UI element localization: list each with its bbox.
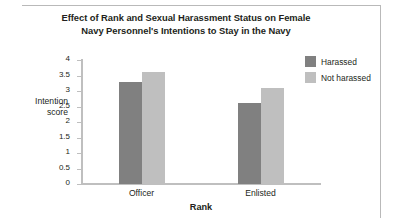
y-axis-tick-label: 2 [66, 116, 70, 125]
chart-title: Effect of Rank and Sexual Harassment Sta… [38, 11, 334, 37]
y-axis-tick-label: 3 [66, 85, 70, 94]
y-axis-tick: 3.5 [77, 76, 82, 77]
bar [142, 72, 165, 184]
bar [238, 103, 261, 184]
y-axis-tick: 1.5 [77, 138, 82, 139]
y-axis-tick: 3 [77, 91, 82, 92]
y-axis-tick-label: 2.5 [59, 101, 70, 110]
x-axis-category-label: Officer [102, 188, 182, 198]
bar [119, 82, 142, 184]
y-axis-tick: 1 [77, 153, 82, 154]
y-axis-tick-label: 4 [66, 54, 70, 63]
y-axis-tick: 2.5 [77, 107, 82, 108]
y-axis-tick: 4 [77, 60, 82, 61]
bar [261, 88, 284, 184]
y-axis-tick: 2 [77, 122, 82, 123]
legend-item-label: Not harassed [321, 73, 371, 83]
y-axis-tick-label: 0.5 [59, 163, 70, 172]
y-axis-tick-label: 1.5 [59, 132, 70, 141]
y-axis-tick-label: 0 [66, 178, 70, 187]
right-divider [380, 5, 381, 218]
legend-item: Harassed [305, 56, 371, 67]
legend-swatch-icon [305, 56, 316, 67]
y-axis-tick-label: 1 [66, 147, 70, 156]
y-axis-tick-label: 3.5 [59, 70, 70, 79]
chart-legend: HarassedNot harassed [305, 56, 371, 88]
chart-figure: Effect of Rank and Sexual Harassment Sta… [0, 0, 396, 220]
x-axis-category-label: Enlisted [221, 188, 301, 198]
plot-area: 43.532.521.510.50 [82, 60, 320, 184]
y-axis-tick: 0.5 [77, 169, 82, 170]
legend-swatch-icon [305, 72, 316, 83]
chart-title-line-1: Effect of Rank and Sexual Harassment Sta… [38, 11, 334, 24]
chart-title-line-2: Navy Personnel's Intentions to Stay in t… [38, 24, 334, 37]
x-axis-label: Rank [82, 202, 320, 212]
legend-item: Not harassed [305, 72, 371, 83]
y-axis-tick: 0 [77, 184, 82, 185]
legend-item-label: Harassed [321, 57, 357, 67]
top-divider [22, 5, 380, 6]
